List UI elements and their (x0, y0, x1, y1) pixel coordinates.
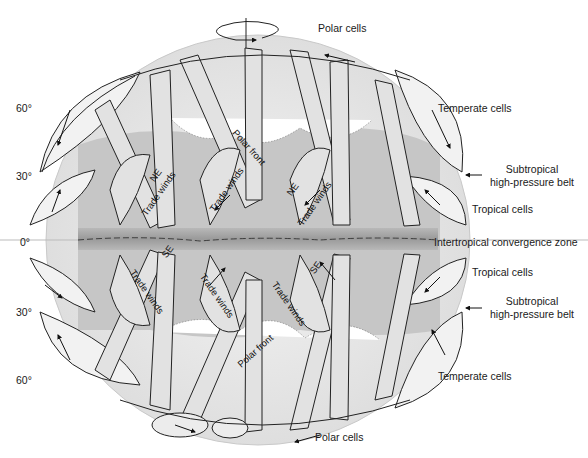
label-subtropical-south-1: Subtropical (486, 295, 578, 307)
latitude-label-30n: 30° (16, 170, 32, 182)
label-temperate-cells-north: Temperate cells (438, 102, 512, 114)
label-tropical-cells-north: Tropical cells (472, 203, 533, 215)
latitude-label-equator: 0° (20, 236, 30, 248)
label-polar-cells-north: Polar cells (318, 22, 366, 34)
latitude-label-60n: 60° (16, 102, 32, 114)
label-subtropical-north-1: Subtropical (486, 163, 578, 175)
label-polar-cells-south: Polar cells (315, 431, 363, 443)
label-itcz: Intertropical convergence zone (434, 236, 578, 248)
label-subtropical-north-2: high-pressure belt (486, 176, 578, 188)
label-tropical-cells-south: Tropical cells (472, 266, 533, 278)
latitude-label-30s: 30° (16, 306, 32, 318)
latitude-label-60s: 60° (16, 374, 32, 386)
label-subtropical-south-2: high-pressure belt (486, 308, 578, 320)
globe-illustration (0, 0, 588, 458)
circulation-diagram: 60° 30° 0° 30° 60° Polar cells Temperate… (0, 0, 588, 458)
label-temperate-cells-south: Temperate cells (438, 370, 512, 382)
